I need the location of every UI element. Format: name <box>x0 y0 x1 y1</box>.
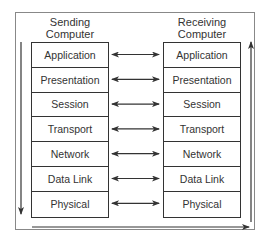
arrows-layer <box>0 0 269 244</box>
